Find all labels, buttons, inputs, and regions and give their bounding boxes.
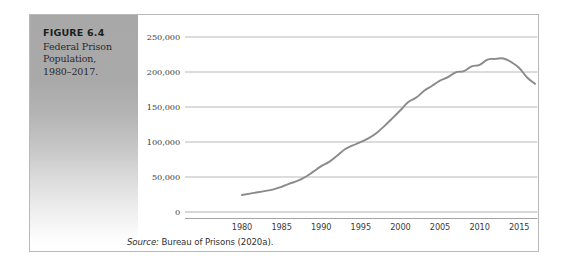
x-tick-label: 2005 — [430, 222, 450, 232]
y-tick-label: 0 — [175, 207, 180, 217]
x-tick-label: 2015 — [509, 222, 529, 232]
x-tick-label: 1990 — [311, 222, 331, 232]
y-tick-label: 50,000 — [152, 172, 180, 182]
x-tick-label: 1980 — [232, 222, 252, 232]
chart-area: 050,000100,000150,000200,000250,000 1980… — [138, 15, 538, 251]
figure-number-label: FIGURE 6.4 — [43, 27, 131, 40]
chart-data-line-federal-prison-population — [242, 58, 535, 195]
y-tick-label: 250,000 — [147, 32, 180, 42]
x-tick-label: 2010 — [469, 222, 489, 232]
y-tick-label: 200,000 — [147, 67, 180, 77]
figure-caption-line-1: Federal Prison — [43, 41, 131, 54]
x-tick-label: 1985 — [271, 222, 291, 232]
chart-gridlines — [185, 37, 538, 212]
x-tick-label: 2000 — [390, 222, 410, 232]
figure-caption-text: FIGURE 6.4 Federal Prison Population, 19… — [43, 27, 131, 78]
source-label: Source: — [127, 237, 159, 247]
y-tick-label: 100,000 — [147, 137, 180, 147]
line-chart-plot — [138, 15, 538, 251]
figure-source-note: Source: Bureau of Prisons (2020a). — [127, 237, 273, 247]
figure-screenshot: FIGURE 6.4 Federal Prison Population, 19… — [0, 0, 574, 270]
figure-box: FIGURE 6.4 Federal Prison Population, 19… — [29, 14, 539, 252]
source-citation: Bureau of Prisons (2020a). — [159, 237, 273, 247]
y-tick-label: 150,000 — [147, 102, 180, 112]
x-tick-label: 1995 — [351, 222, 371, 232]
figure-caption-line-3: 1980–2017. — [43, 66, 131, 79]
figure-caption-panel: FIGURE 6.4 Federal Prison Population, 19… — [30, 15, 138, 251]
figure-caption-line-2: Population, — [43, 53, 131, 66]
